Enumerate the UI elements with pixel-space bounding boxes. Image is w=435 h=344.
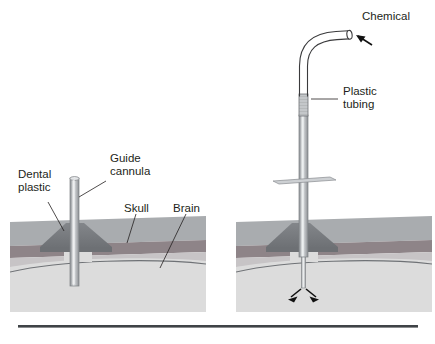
bottom-rule — [18, 325, 418, 328]
right-tissue-block — [236, 216, 432, 312]
chemical-arrow-head — [356, 35, 366, 43]
injector-tip — [302, 255, 306, 288]
label-dental-plastic-line1: Dental — [18, 168, 51, 180]
guide-cannula — [70, 177, 79, 287]
figure-container: Dental plastic Guide cannula Skull Brain — [0, 0, 435, 344]
label-brain: Brain — [173, 202, 200, 214]
left-panel: Dental plastic Guide cannula Skull Brain — [10, 152, 206, 312]
chemical-arrow — [356, 35, 372, 45]
label-chemical: Chemical — [362, 10, 410, 22]
leader-guide-cannula — [79, 181, 106, 197]
tubing-open-tip — [346, 30, 352, 39]
tubing-outer-wall — [300, 31, 349, 96]
label-plastic-tubing-line1: Plastic — [343, 85, 377, 97]
guide-cannula-top — [70, 177, 79, 181]
diagram-svg: Dental plastic Guide cannula Skull Brain — [0, 0, 435, 344]
guide-cannula-highlight — [73, 180, 75, 284]
injector-shaft-highlight — [302, 116, 304, 256]
label-guide-cannula-line2: cannula — [110, 165, 151, 177]
left-tissue-block — [10, 216, 206, 312]
label-plastic-tubing-line2: tubing — [343, 98, 374, 110]
label-dental-plastic-line2: plastic — [18, 181, 51, 193]
label-skull: Skull — [124, 202, 149, 214]
right-panel: Chemical Plastic tubing — [236, 10, 432, 312]
ferrule-connector — [299, 94, 308, 116]
label-guide-cannula-line1: Guide — [110, 152, 141, 164]
